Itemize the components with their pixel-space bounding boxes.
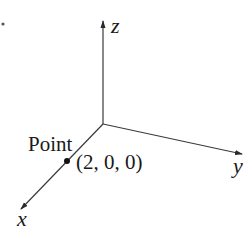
y-axis-label: y (231, 153, 243, 178)
coordinate-axes-diagram: z y x Point (2, 0, 0) (0, 0, 244, 228)
x-axis-label: x (16, 206, 27, 228)
point-marker (64, 158, 70, 164)
z-axis-label: z (110, 13, 120, 38)
point-coordinates: (2, 0, 0) (76, 150, 143, 174)
point-caption: Point (28, 132, 73, 156)
stray-dot (1, 22, 4, 25)
